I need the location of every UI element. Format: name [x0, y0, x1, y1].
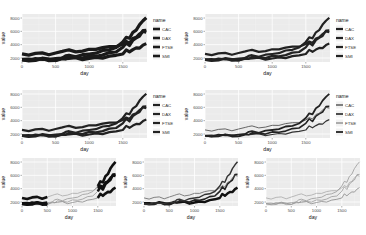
x-tick-label: 0 — [21, 208, 24, 213]
y-tick-label: 8000 — [193, 92, 203, 97]
y-axis-label: value — [0, 108, 6, 121]
x-tick-label: 500 — [52, 140, 60, 145]
chart-panel-2: 0500100015002000400060008000dayvaluename… — [183, 0, 366, 78]
x-tick-label: 1500 — [93, 208, 103, 213]
y-tick-label: 8000 — [132, 160, 142, 165]
legend-item-smi: SMI — [162, 54, 170, 59]
y-tick-label: 2000 — [132, 200, 142, 205]
x-tick-label: 0 — [204, 64, 207, 69]
x-tick-label: 1000 — [85, 140, 95, 145]
y-tick-label: 8000 — [193, 16, 203, 21]
x-tick-label: 500 — [44, 208, 52, 213]
legend-item-dax: DAX — [162, 112, 171, 117]
y-tick-label: 2000 — [193, 56, 203, 61]
x-tick-label: 0 — [143, 208, 146, 213]
line-chart-svg: 0500100015002000400060008000dayvaluename… — [0, 0, 183, 78]
y-tick-label: 4000 — [132, 186, 142, 191]
chart-panel-4: 0500100015002000400060008000dayvaluename… — [183, 76, 366, 154]
y-tick-label: 4000 — [10, 118, 20, 123]
y-axis-label: value — [183, 108, 189, 121]
y-tick-label: 6000 — [254, 173, 264, 178]
legend-item-ftse: FTSE — [162, 121, 173, 126]
x-tick-label: 1500 — [118, 140, 128, 145]
y-tick-label: 2000 — [10, 132, 20, 137]
x-tick-label: 0 — [265, 208, 268, 213]
chart-panel-3: 0500100015002000400060008000dayvaluename… — [0, 76, 183, 154]
x-tick-label: 1000 — [268, 140, 278, 145]
x-tick-label: 0 — [204, 140, 207, 145]
x-tick-label: 0 — [21, 64, 24, 69]
x-tick-label: 500 — [52, 64, 60, 69]
y-tick-label: 8000 — [10, 16, 20, 21]
legend-item-smi: SMI — [345, 130, 353, 135]
legend-title: name — [153, 17, 166, 23]
y-tick-label: 6000 — [132, 173, 142, 178]
line-chart-svg: 0500100015002000400060008000dayvalue — [244, 152, 366, 222]
x-tick-label: 1500 — [337, 208, 347, 213]
x-tick-label: 1000 — [190, 208, 200, 213]
x-tick-label: 1000 — [312, 208, 322, 213]
y-axis-label: value — [0, 32, 6, 45]
x-tick-label: 1000 — [68, 208, 78, 213]
y-tick-label: 2000 — [193, 132, 203, 137]
y-tick-label: 4000 — [10, 42, 20, 47]
legend-item-ftse: FTSE — [162, 45, 173, 50]
y-tick-label: 4000 — [10, 186, 20, 191]
x-tick-label: 500 — [288, 208, 296, 213]
x-tick-label: 1500 — [118, 64, 128, 69]
line-chart-svg: 0500100015002000400060008000dayvaluename… — [183, 76, 366, 154]
y-tick-label: 2000 — [10, 200, 20, 205]
y-tick-label: 2000 — [10, 56, 20, 61]
x-tick-label: 500 — [235, 64, 243, 69]
line-chart-svg: 0500100015002000400060008000dayvalue — [0, 152, 122, 222]
y-tick-label: 2000 — [254, 200, 264, 205]
y-tick-label: 4000 — [193, 118, 203, 123]
legend-item-smi: SMI — [345, 54, 353, 59]
legend-item-cac: CAC — [345, 27, 354, 32]
x-tick-label: 1500 — [301, 64, 311, 69]
chart-panel-6: 0500100015002000400060008000dayvalue — [122, 152, 244, 222]
y-axis-label: value — [0, 176, 6, 189]
y-axis-label: value — [244, 176, 250, 189]
y-tick-label: 8000 — [10, 160, 20, 165]
line-chart-svg: 0500100015002000400060008000dayvaluename… — [0, 76, 183, 154]
y-tick-label: 8000 — [10, 92, 20, 97]
line-chart-svg: 0500100015002000400060008000dayvaluename… — [183, 0, 366, 78]
x-axis-label: day — [309, 214, 318, 220]
legend-item-smi: SMI — [162, 130, 170, 135]
legend-item-cac: CAC — [162, 103, 171, 108]
y-tick-label: 4000 — [193, 42, 203, 47]
legend-item-dax: DAX — [162, 36, 171, 41]
x-tick-label: 1500 — [301, 140, 311, 145]
chart-panel-5: 0500100015002000400060008000dayvalue — [0, 152, 122, 222]
legend-item-cac: CAC — [162, 27, 171, 32]
chart-panel-7: 0500100015002000400060008000dayvalue — [244, 152, 366, 222]
legend-item-dax: DAX — [345, 36, 354, 41]
legend-item-dax: DAX — [345, 112, 354, 117]
x-axis-label: day — [65, 214, 74, 220]
x-axis-label: day — [187, 214, 196, 220]
y-axis-label: value — [183, 32, 189, 45]
y-tick-label: 6000 — [10, 105, 20, 110]
legend-item-ftse: FTSE — [345, 121, 356, 126]
x-tick-label: 0 — [21, 140, 24, 145]
x-tick-label: 1000 — [85, 64, 95, 69]
x-tick-label: 500 — [235, 140, 243, 145]
y-axis-label: value — [122, 176, 128, 189]
legend-title: name — [336, 17, 349, 23]
legend-item-cac: CAC — [345, 103, 354, 108]
legend-title: name — [153, 93, 166, 99]
y-tick-label: 6000 — [10, 29, 20, 34]
legend-item-ftse: FTSE — [345, 45, 356, 50]
x-tick-label: 1500 — [215, 208, 225, 213]
x-tick-label: 500 — [166, 208, 174, 213]
y-tick-label: 6000 — [10, 173, 20, 178]
y-tick-label: 6000 — [193, 105, 203, 110]
y-tick-label: 6000 — [193, 29, 203, 34]
y-tick-label: 4000 — [254, 186, 264, 191]
line-chart-svg: 0500100015002000400060008000dayvalue — [122, 152, 244, 222]
chart-panel-1: 0500100015002000400060008000dayvaluename… — [0, 0, 183, 78]
legend-title: name — [336, 93, 349, 99]
x-tick-label: 1000 — [268, 64, 278, 69]
y-tick-label: 8000 — [254, 160, 264, 165]
